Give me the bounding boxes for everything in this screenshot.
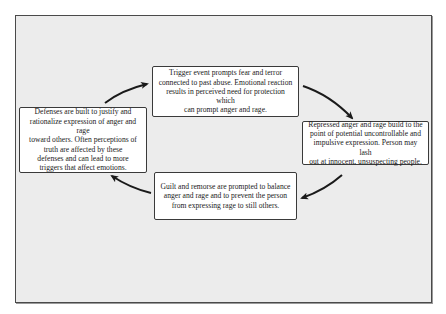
text-line: defenses and can lead to more bbox=[24, 154, 142, 163]
text-line: truth are affected by these bbox=[24, 145, 142, 154]
box-text: Repressed anger and rage build to the po… bbox=[307, 120, 424, 166]
cycle-box-repressed-anger: Repressed anger and rage build to the po… bbox=[302, 121, 429, 165]
text-line: Defenses are built to justify and bbox=[24, 107, 142, 116]
text-line: toward others. Often perceptions of bbox=[24, 135, 142, 144]
box-text: Guilt and remorse are prompted to balanc… bbox=[161, 182, 291, 210]
cycle-box-trigger-event: Trigger event prompts fear and terror co… bbox=[152, 66, 299, 117]
text-line: Repressed anger and rage build to the bbox=[307, 120, 424, 129]
text-line: results in perceived need for protection… bbox=[157, 87, 294, 106]
cycle-box-guilt-remorse: Guilt and remorse are prompted to balanc… bbox=[154, 172, 297, 220]
text-line: rationalize expression of anger and rage bbox=[24, 117, 142, 136]
text-line: point of potential uncontrollable and bbox=[307, 129, 424, 138]
box-text: Trigger event prompts fear and terror co… bbox=[157, 68, 294, 114]
box-text: Defenses are built to justify and ration… bbox=[24, 107, 142, 172]
text-line: can prompt anger and rage. bbox=[157, 105, 294, 114]
text-line: Guilt and remorse are prompted to balanc… bbox=[161, 182, 291, 191]
cycle-box-defenses: Defenses are built to justify and ration… bbox=[19, 107, 147, 173]
text-line: impulsive expression. Person may lash bbox=[307, 138, 424, 157]
text-line: anger and rage and to prevent the person bbox=[161, 191, 291, 200]
text-line: triggers that affect emotions. bbox=[24, 163, 142, 172]
text-line: out at innocent, unsuspecting people. bbox=[307, 157, 424, 166]
text-line: Trigger event prompts fear and terror bbox=[157, 68, 294, 77]
text-line: from expressing rage to still others. bbox=[161, 201, 291, 210]
text-line: connected to past abuse. Emotional react… bbox=[157, 78, 294, 87]
